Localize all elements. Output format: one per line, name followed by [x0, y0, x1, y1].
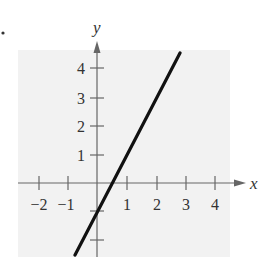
x-tick-label: −1	[57, 196, 74, 213]
item-marker-dot	[1, 31, 4, 34]
y-tick-label: 3	[77, 90, 85, 107]
plot-background	[18, 50, 230, 257]
y-tick-label: 4	[77, 60, 85, 77]
x-tick-label: 3	[182, 196, 190, 213]
x-tick-label: 4	[211, 196, 219, 213]
x-axis-label: x	[249, 174, 258, 193]
y-tick-label: 2	[77, 118, 85, 135]
y-tick-label: 1	[77, 147, 85, 164]
chart: x y −2 −1 1 2 3 4 4 3 2 1	[0, 0, 267, 257]
x-axis-arrow-icon	[234, 180, 246, 187]
y-axis-label: y	[91, 18, 101, 37]
x-tick-label: 2	[153, 196, 161, 213]
y-axis-arrow-icon	[94, 41, 101, 53]
x-tick-label: −2	[30, 196, 47, 213]
x-tick-label: 1	[123, 196, 131, 213]
